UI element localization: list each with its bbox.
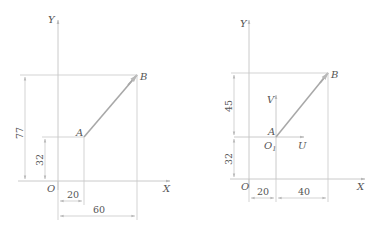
right-point-a-label: A <box>267 126 275 137</box>
left-dim-32-label: 32 <box>34 154 45 166</box>
left-point-a-label: A <box>75 127 83 138</box>
left-x-axis-label: X <box>162 183 171 194</box>
right-local-origin-label: O1 <box>264 140 276 153</box>
left-dim-60-label: 60 <box>93 204 105 215</box>
right-y-axis-label: Y <box>240 18 248 29</box>
left-origin-label: O <box>47 183 55 194</box>
right-u-axis-label: U <box>298 140 307 151</box>
local-origin-subscript: 1 <box>272 145 276 153</box>
right-dim-32-label: 32 <box>223 153 234 165</box>
right-diagram: 45 32 20 40 Y X O V U A O1 B <box>223 18 365 202</box>
left-diagram: 77 32 20 60 Y X O A B <box>14 14 171 220</box>
left-y-axis-label: Y <box>48 14 56 25</box>
left-dim-20-label: 20 <box>67 189 79 200</box>
left-point-b-label: B <box>139 71 147 82</box>
right-dim-20-label: 20 <box>257 186 269 197</box>
local-origin-letter: O <box>264 140 272 151</box>
coordinate-diagrams: 77 32 20 60 Y X O A B 45 32 <box>0 0 379 230</box>
left-segment-arrowhead <box>128 75 137 85</box>
left-dim-77-label: 77 <box>14 127 25 139</box>
right-dim-40-label: 40 <box>298 186 310 197</box>
right-origin-label: O <box>241 181 249 192</box>
right-segment-arrowhead <box>320 73 328 83</box>
right-dim-45-label: 45 <box>223 100 234 112</box>
right-v-axis-label: V <box>267 94 276 105</box>
right-x-axis-label: X <box>356 181 365 192</box>
right-point-b-label: B <box>330 69 338 80</box>
